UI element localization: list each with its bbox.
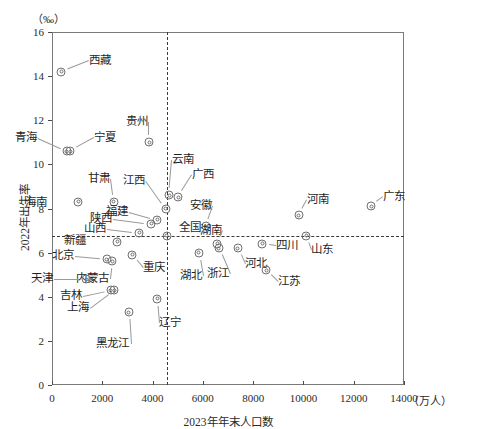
x-tick-label: 6000 xyxy=(192,392,214,404)
x-tick-mark xyxy=(153,381,154,385)
data-point xyxy=(147,219,156,228)
y-axis-title: 2022年出生率 xyxy=(16,184,32,251)
point-label: 山西 xyxy=(84,223,106,235)
point-label: 西藏 xyxy=(89,55,111,67)
x-tick-label: 4000 xyxy=(142,392,164,404)
point-label: 河南 xyxy=(307,194,329,206)
scatter-chart: （‰） （万人） 2023年年末人口数 2022年出生率 02468101214… xyxy=(0,0,478,429)
data-point xyxy=(174,193,183,202)
y-tick-mark xyxy=(48,297,52,298)
data-point xyxy=(367,202,376,211)
point-label: 辽宁 xyxy=(159,317,181,329)
data-point xyxy=(113,237,122,246)
y-tick-mark xyxy=(48,32,52,33)
data-point xyxy=(57,67,66,76)
y-tick-label: 0 xyxy=(12,379,44,391)
x-tick-mark xyxy=(203,381,204,385)
data-point xyxy=(74,197,83,206)
data-point xyxy=(162,231,171,240)
point-label: 广西 xyxy=(192,169,214,181)
y-tick-label: 6 xyxy=(12,247,44,259)
x-tick-label: 14000 xyxy=(390,392,418,404)
data-point xyxy=(128,250,137,259)
data-point xyxy=(66,147,75,156)
data-point xyxy=(82,275,91,284)
point-label: 甘肃 xyxy=(88,173,110,185)
data-point xyxy=(135,228,144,237)
horizontal-reference-line xyxy=(52,236,404,237)
data-point xyxy=(258,239,267,248)
x-axis-title: 2023年年末人口数 xyxy=(178,413,278,429)
point-label: 安徽 xyxy=(190,200,212,212)
y-axis-unit-label: （‰） xyxy=(32,10,65,26)
y-tick-label: 10 xyxy=(12,158,44,170)
label-leader-line xyxy=(54,279,79,280)
x-tick-mark xyxy=(102,381,103,385)
y-tick-mark xyxy=(48,164,52,165)
data-point xyxy=(194,248,203,257)
data-point xyxy=(294,211,303,220)
y-tick-label: 14 xyxy=(12,70,44,82)
y-tick-mark xyxy=(48,120,52,121)
point-label: 宁夏 xyxy=(94,132,116,144)
y-tick-mark xyxy=(48,385,52,386)
x-tick-mark xyxy=(354,381,355,385)
y-tick-label: 16 xyxy=(12,26,44,38)
point-label: 北京 xyxy=(52,250,74,262)
data-point xyxy=(161,204,170,213)
y-tick-label: 2 xyxy=(12,335,44,347)
point-label: 天津 xyxy=(31,273,53,285)
data-point xyxy=(165,191,174,200)
data-point xyxy=(302,231,311,240)
data-point xyxy=(108,257,117,266)
point-label: 广东 xyxy=(383,191,405,203)
point-label: 上海 xyxy=(67,302,89,314)
data-point xyxy=(262,266,271,275)
point-label: 青海 xyxy=(15,132,37,144)
data-point xyxy=(233,244,242,253)
y-tick-mark xyxy=(48,76,52,77)
data-point xyxy=(214,244,223,253)
point-label: 浙江 xyxy=(207,268,229,280)
point-label: 重庆 xyxy=(143,262,165,274)
point-label: 新疆 xyxy=(64,235,86,247)
point-label: 四川 xyxy=(276,240,298,252)
x-tick-mark xyxy=(253,381,254,385)
x-tick-label: 12000 xyxy=(340,392,368,404)
point-label: 海南 xyxy=(25,197,47,209)
point-label: 湖北 xyxy=(180,270,202,282)
x-tick-mark xyxy=(303,381,304,385)
x-tick-label: 10000 xyxy=(290,392,318,404)
x-tick-label: 8000 xyxy=(242,392,264,404)
point-label: 内蒙古 xyxy=(76,273,109,285)
data-point xyxy=(124,308,133,317)
x-tick-mark xyxy=(52,381,53,385)
point-label: 江西 xyxy=(123,175,145,187)
data-point xyxy=(145,138,154,147)
point-label: 江苏 xyxy=(278,276,300,288)
y-tick-mark xyxy=(48,341,52,342)
point-label: 吉林 xyxy=(60,290,82,302)
x-tick-label: 0 xyxy=(49,392,55,404)
point-label: 山东 xyxy=(311,244,333,256)
y-tick-mark xyxy=(48,209,52,210)
y-tick-label: 4 xyxy=(12,291,44,303)
data-point xyxy=(153,294,162,303)
point-label: 云南 xyxy=(172,154,194,166)
point-label: 贵州 xyxy=(126,116,148,128)
data-point xyxy=(110,286,119,295)
y-tick-label: 12 xyxy=(12,114,44,126)
x-tick-label: 2000 xyxy=(91,392,113,404)
plot-area xyxy=(52,32,404,385)
point-label: 全国 xyxy=(179,222,201,234)
x-tick-mark xyxy=(404,381,405,385)
point-label: 黑龙江 xyxy=(96,338,129,350)
